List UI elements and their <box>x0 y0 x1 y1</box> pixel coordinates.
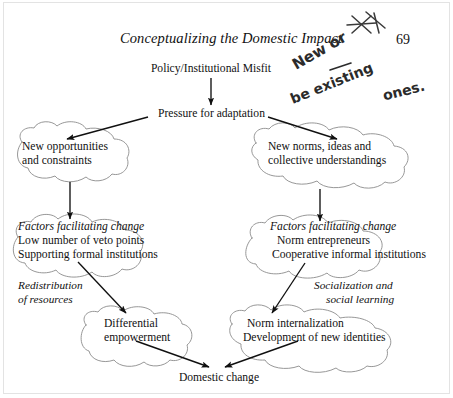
arrow-factors-right-to-internalization <box>272 263 305 313</box>
node-policy-institutional-misfit: Policy/Institutional Misfit <box>139 62 283 76</box>
node-norm-internalization-line1: Norm internalization <box>247 317 344 331</box>
handwritten-star-icon <box>347 12 385 33</box>
arrow-factors-left-to-empowerment <box>78 262 126 313</box>
arrow-pressure-to-new-norms <box>268 117 337 139</box>
edge-label-socialization-line1: Socialization and <box>314 278 393 292</box>
node-factors-right-line2: Norm entrepreneurs <box>277 234 370 248</box>
node-factors-left-line3: Supporting formal institutions <box>18 248 158 262</box>
edge-label-redistribution-line1: Redistribution <box>18 278 83 292</box>
node-factors-left-heading: Factors facilitating change <box>18 220 144 234</box>
node-new-norms-line1: New norms, ideas and <box>268 140 371 154</box>
page-title: Conceptualizing the Domestic Impact <box>120 30 342 47</box>
page-number: 69 <box>396 32 410 49</box>
arrow-pressure-to-new-opportunities <box>67 117 148 139</box>
node-factors-right-heading: Factors facilitating change <box>270 220 396 234</box>
node-differential-empowerment-line1: Differential <box>104 317 158 331</box>
node-domestic-change: Domestic change <box>164 371 274 385</box>
node-factors-right-line3: Cooperative informal institutions <box>272 248 426 262</box>
node-factors-left-line2: Low number of veto points <box>18 234 144 248</box>
node-new-opportunities-line2: and constraints <box>22 154 92 168</box>
node-new-opportunities-line1: New opportunities <box>22 140 108 154</box>
node-norm-internalization-line2: Development of new identities <box>243 331 386 345</box>
node-pressure-for-adaptation: Pressure for adaptation <box>145 107 278 121</box>
arrow-empowerment-to-domestic-change <box>136 341 209 367</box>
edge-label-redistribution-line2: of resources <box>18 292 73 306</box>
node-new-norms-line2: collective understandings <box>268 154 386 168</box>
arrow-internalization-to-domestic-change <box>225 341 298 367</box>
edge-label-socialization-line2: social learning <box>326 292 394 306</box>
node-differential-empowerment-line2: empowerment <box>104 331 170 345</box>
scanned-book-page: Conceptualizing the Domestic Impact 69 P… <box>0 0 453 398</box>
